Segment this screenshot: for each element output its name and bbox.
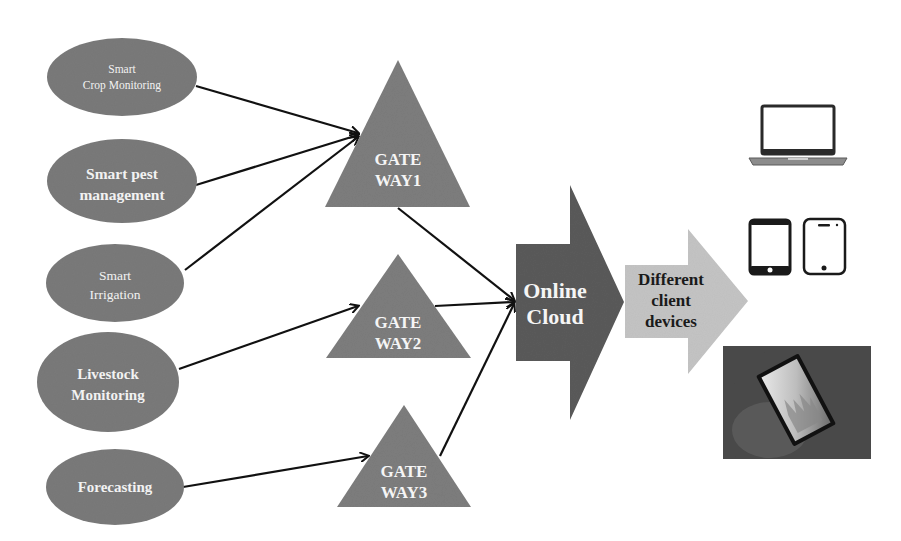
svg-text:Smart pest: Smart pest xyxy=(86,165,159,182)
svg-text:Forecasting: Forecasting xyxy=(78,479,153,495)
svg-text:Irrigation: Irrigation xyxy=(90,287,141,302)
online-cloud-arrow: Online Cloud xyxy=(516,185,624,420)
svg-text:Monitoring: Monitoring xyxy=(71,387,145,403)
source-node-pest: Smart pest management xyxy=(47,139,197,223)
arrow-forecasting-to-gateway3 xyxy=(183,456,368,487)
svg-text:Cloud: Cloud xyxy=(526,304,583,329)
svg-text:management: management xyxy=(79,186,165,203)
svg-text:client: client xyxy=(651,291,691,310)
svg-text:Crop Monitoring: Crop Monitoring xyxy=(83,79,162,92)
iot-agriculture-diagram: Smart Crop Monitoring Smart pest managem… xyxy=(0,0,901,541)
arrow-livestock-to-gateway2 xyxy=(179,306,358,369)
svg-text:GATE: GATE xyxy=(375,150,422,169)
laptop-icon xyxy=(749,106,847,165)
gateway-1: GATE WAY1 xyxy=(325,60,470,207)
svg-text:Livestock: Livestock xyxy=(77,366,139,382)
source-node-forecasting: Forecasting xyxy=(46,449,184,525)
arrow-crop-to-gateway1 xyxy=(196,86,358,133)
connectors xyxy=(179,86,514,487)
svg-text:Smart: Smart xyxy=(108,63,136,75)
smartphone-icon xyxy=(750,220,790,274)
source-node-livestock: Livestock Monitoring xyxy=(37,332,179,432)
svg-text:Smart: Smart xyxy=(99,268,131,283)
svg-text:Different: Different xyxy=(638,270,704,289)
tablet-icon xyxy=(804,219,845,274)
svg-text:WAY3: WAY3 xyxy=(381,483,428,502)
svg-text:WAY1: WAY1 xyxy=(375,171,422,190)
arrow-gateway2-to-cloud xyxy=(435,302,514,306)
source-node-irrigation: Smart Irrigation xyxy=(46,244,184,322)
arrow-gateway3-to-cloud xyxy=(440,304,514,456)
svg-text:GATE: GATE xyxy=(381,462,428,481)
arrow-pest-to-gateway1 xyxy=(196,135,358,185)
tablet-in-hand-photo xyxy=(723,346,871,459)
source-node-crop: Smart Crop Monitoring xyxy=(47,38,197,116)
svg-text:WAY2: WAY2 xyxy=(375,334,422,353)
svg-text:GATE: GATE xyxy=(375,313,422,332)
svg-text:devices: devices xyxy=(645,312,697,331)
svg-text:Online: Online xyxy=(523,278,587,303)
gateway-3: GATE WAY3 xyxy=(337,405,471,507)
